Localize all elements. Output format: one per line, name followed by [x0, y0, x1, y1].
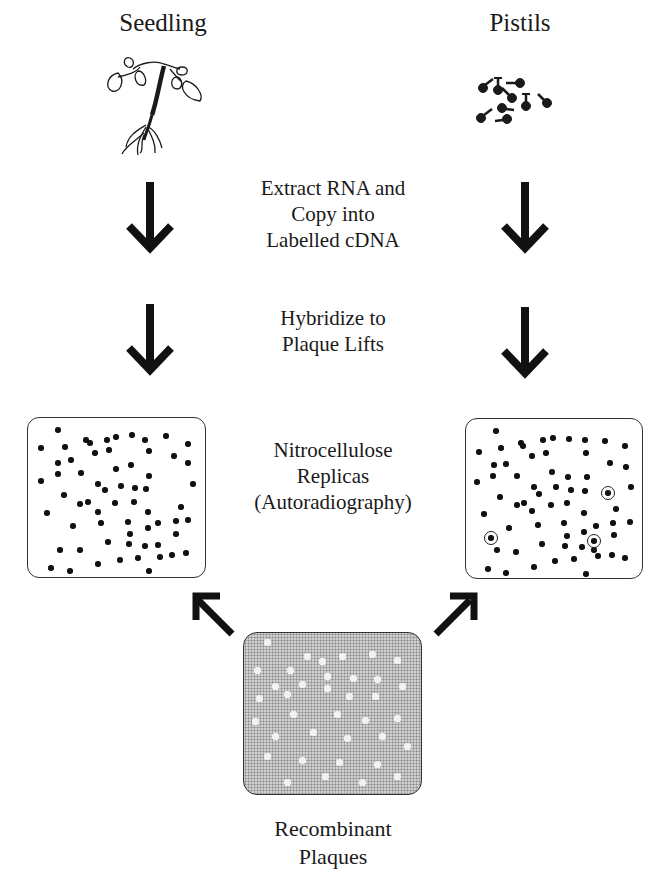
plaque-clearing — [336, 759, 343, 766]
plaque-signal-dot — [173, 531, 179, 537]
plaque-clearing — [264, 753, 271, 760]
plaque-signal-dot — [513, 549, 519, 555]
plaque-clearing — [299, 681, 306, 688]
plaque-signal-dot — [514, 502, 520, 508]
plaque-signal-dot — [503, 461, 509, 467]
plaque-signal-dot — [611, 532, 617, 538]
plaque-clearing — [304, 653, 311, 660]
plaque-signal-dot — [623, 464, 629, 470]
plaque-signal-dot — [78, 470, 84, 476]
plaque-signal-dot — [173, 518, 179, 524]
plaque-signal-dot — [521, 500, 527, 506]
seedling-icon — [100, 55, 210, 155]
plaque-clearing — [399, 683, 406, 690]
plaque-signal-dot — [485, 566, 491, 572]
plaque-signal-dot — [506, 525, 512, 531]
plaque-signal-dot — [55, 471, 61, 477]
plaque-signal-dot — [95, 561, 101, 567]
plaque-signal-dot — [68, 457, 74, 463]
plaque-signal-dot — [562, 543, 568, 549]
plaque-signal-dot — [550, 435, 556, 441]
plaque-signal-dot — [92, 450, 98, 456]
plaque-signal-dot — [48, 565, 54, 571]
plaque-clearing — [372, 693, 379, 700]
plaque-signal-dot — [474, 479, 480, 485]
plaque-signal-dot — [549, 469, 555, 475]
circled-pistil-specific-plaque — [484, 531, 498, 545]
plaque-signal-dot — [622, 555, 628, 561]
circled-pistil-specific-plaque — [587, 534, 601, 548]
plaque-clearing — [287, 667, 294, 674]
plaque-signal-dot — [627, 519, 633, 525]
plaque-signal-dot — [488, 535, 494, 541]
plaque-signal-dot — [582, 488, 588, 494]
plaque-signal-dot — [67, 568, 73, 574]
plaque-signal-dot — [185, 441, 191, 447]
plaque-signal-dot — [610, 520, 616, 526]
plaque-clearing — [374, 761, 381, 768]
step-hybridize: Hybridize to Plaque Lifts — [205, 305, 461, 357]
plaque-signal-dot — [565, 474, 571, 480]
plaque-clearing — [252, 718, 259, 725]
plaque-signal-dot — [169, 552, 175, 558]
plaque-signal-dot — [61, 492, 67, 498]
plaque-signal-dot — [185, 517, 191, 523]
plaque-clearing — [299, 757, 306, 764]
plaque-signal-dot — [146, 568, 152, 574]
down-arrow-right-1 — [500, 180, 550, 255]
recombinant-plaques-label: Recombinant Plaques — [215, 815, 451, 871]
plaque-signal-dot — [579, 544, 585, 550]
plaque-clearing — [359, 779, 366, 786]
plaque-signal-dot — [132, 485, 138, 491]
plaque-signal-dot — [135, 555, 141, 561]
plaque-signal-dot — [481, 511, 487, 517]
plaque-signal-dot — [543, 450, 549, 456]
plaque-signal-dot — [55, 460, 61, 466]
plaque-clearing — [374, 676, 381, 683]
plaque-signal-dot — [131, 499, 137, 505]
seedling-replica-filter — [27, 417, 206, 578]
plaque-signal-dot — [171, 453, 177, 459]
plaque-signal-dot — [118, 483, 124, 489]
plaque-signal-dot — [540, 437, 546, 443]
plaque-signal-dot — [593, 523, 599, 529]
plaque-clearing — [334, 711, 341, 718]
plaque-clearing — [254, 667, 261, 674]
plaque-signal-dot — [583, 571, 589, 577]
plaque-signal-dot — [157, 554, 163, 560]
plaque-signal-dot — [497, 494, 503, 500]
plaque-signal-dot — [605, 490, 611, 496]
plaque-signal-dot — [95, 481, 101, 487]
plaque-signal-dot — [117, 557, 123, 563]
plaque-signal-dot — [531, 484, 537, 490]
plaque-signal-dot — [163, 433, 169, 439]
down-arrow-left-1 — [125, 180, 175, 255]
plaque-signal-dot — [581, 529, 587, 535]
plaque-signal-dot — [127, 531, 133, 537]
plaque-clearing — [369, 651, 376, 658]
plaque-signal-dot — [535, 522, 541, 528]
plaque-signal-dot — [38, 445, 44, 451]
plaque-signal-dot — [529, 508, 535, 514]
plaque-signal-dot — [185, 460, 191, 466]
plaque-signal-dot — [607, 460, 613, 466]
plaque-clearing — [290, 711, 297, 718]
plaque-signal-dot — [77, 501, 83, 507]
plaque-clearing — [350, 675, 357, 682]
plaque-signal-dot — [146, 473, 152, 479]
plaque-signal-dot — [609, 552, 615, 558]
plaque-signal-dot — [494, 547, 500, 553]
step-extract-rna: Extract RNA and Copy into Labelled cDNA — [205, 175, 461, 253]
arrow-up-left — [190, 590, 240, 640]
plaque-signal-dot — [561, 520, 567, 526]
plaque-signal-dot — [104, 437, 110, 443]
plaque-signal-dot — [552, 558, 558, 564]
plaque-clearing — [394, 657, 401, 664]
plaque-clearing — [272, 683, 279, 690]
plaque-signal-dot — [146, 448, 152, 454]
plaque-signal-dot — [529, 453, 535, 459]
plaque-signal-dot — [95, 509, 101, 515]
plaque-signal-dot — [571, 556, 577, 562]
plaque-signal-dot — [87, 440, 93, 446]
plaque-signal-dot — [583, 450, 589, 456]
